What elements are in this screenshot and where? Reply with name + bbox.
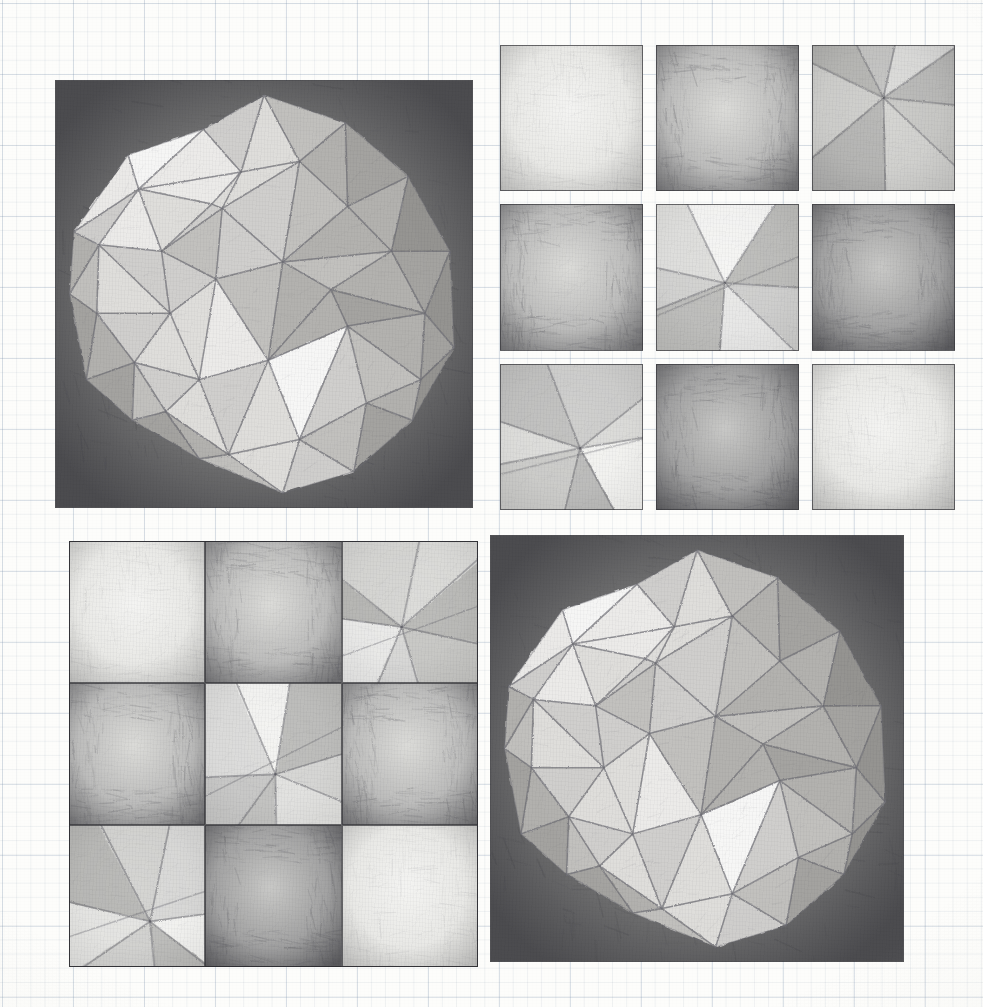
tonal-square-cell-r3c2 (205, 825, 341, 967)
panel-sphere-bottom-right (490, 535, 904, 962)
tonal-square-cell-r1c1 (500, 45, 643, 191)
tonal-square-cell-r2c3 (342, 683, 478, 825)
tonal-square-cell-r1c2 (205, 541, 341, 683)
tonal-square-cell-r1c1 (69, 541, 205, 683)
tonal-square-cell-r3c3 (342, 825, 478, 967)
tonal-square-cell-r3c1 (500, 364, 643, 510)
tonal-square-cell-r3c3 (812, 364, 955, 510)
panel-sphere-top-left (55, 80, 473, 508)
grid-top-right (500, 45, 955, 510)
tonal-square-cell-r2c2 (205, 683, 341, 825)
tonal-square-cell-r1c3 (812, 45, 955, 191)
tonal-square-cell-r1c2 (656, 45, 799, 191)
tonal-square-cell-r2c1 (500, 204, 643, 350)
drawing-sheet (0, 0, 983, 1007)
grid-bottom-left (69, 541, 478, 967)
tonal-square-cell-r2c2 (656, 204, 799, 350)
tonal-square-cell-r3c2 (656, 364, 799, 510)
tonal-square-cell-r3c1 (69, 825, 205, 967)
tonal-square-cell-r2c1 (69, 683, 205, 825)
tonal-square-cell-r1c3 (342, 541, 478, 683)
tonal-square-cell-r2c3 (812, 204, 955, 350)
